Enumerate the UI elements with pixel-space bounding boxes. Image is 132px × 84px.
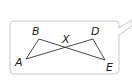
label-e: E [106, 61, 113, 74]
label-a: A [14, 56, 23, 69]
label-b: B [32, 25, 40, 38]
label-x: X [61, 33, 70, 46]
label-d: D [91, 25, 99, 38]
callout-box [10, 20, 132, 74]
diagram-canvas: B A X D E [0, 0, 132, 84]
